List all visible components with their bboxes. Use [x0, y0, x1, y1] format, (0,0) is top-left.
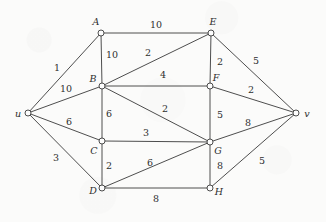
graph-edge-F-v: [210, 86, 296, 113]
graph-node-G[interactable]: [207, 139, 213, 145]
graph-edge-G-v: [210, 113, 296, 142]
graph-edge-E-F: [210, 33, 211, 86]
graph-node-D[interactable]: [99, 185, 105, 191]
graph-edge-u-B: [28, 86, 102, 113]
graph-edge-u-A: [28, 33, 101, 113]
edges-group: [28, 33, 296, 188]
graph-node-B[interactable]: [99, 83, 105, 89]
graph-node-C[interactable]: [99, 138, 105, 144]
graph-svg: [0, 0, 326, 222]
graph-edge-H-v: [210, 113, 296, 188]
graph-node-H[interactable]: [207, 185, 213, 191]
graph-node-v[interactable]: [293, 110, 299, 116]
graph-node-F[interactable]: [207, 83, 213, 89]
graph-node-u[interactable]: [25, 110, 31, 116]
nodes-group: [25, 30, 299, 191]
graph-edge-B-G: [102, 86, 210, 142]
graph-edge-u-D: [28, 113, 102, 188]
graph-diagram-canvas: 110631010246232682525885uABCDEFGHv: [0, 0, 326, 222]
graph-edge-u-C: [28, 113, 102, 141]
graph-node-A[interactable]: [98, 30, 104, 36]
graph-node-E[interactable]: [208, 30, 214, 36]
graph-edge-A-B: [101, 33, 102, 86]
graph-edge-D-G: [102, 142, 210, 188]
graph-edge-E-v: [211, 33, 296, 113]
graph-edge-C-G: [102, 141, 210, 142]
graph-edge-B-E: [102, 33, 211, 86]
